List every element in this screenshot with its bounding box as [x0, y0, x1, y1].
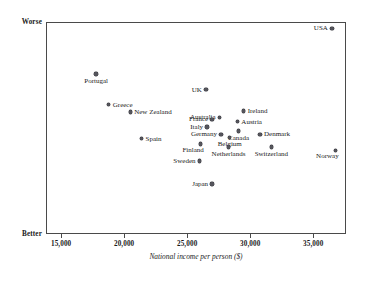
- x-tick-label-30000: 30,000: [226, 240, 274, 248]
- data-label-sweden: Sweden: [173, 157, 195, 164]
- data-label-ireland: Ireland: [248, 108, 268, 115]
- data-label-norway: Norway: [316, 153, 339, 160]
- plot-area: USAPortugalUKGreeceNew ZealandIrelandAus…: [46, 22, 346, 234]
- x-tick-mark-35000: [313, 234, 314, 238]
- data-point-netherlands: [227, 145, 230, 148]
- data-point-germany: [219, 133, 222, 136]
- data-point-austria: [236, 120, 239, 123]
- data-point-italy: [205, 125, 208, 128]
- data-label-spain: Spain: [146, 135, 162, 142]
- data-label-germany: Germany: [191, 131, 217, 138]
- y-axis-worse-label: Worse: [6, 18, 42, 26]
- x-tick-label-20000: 20,000: [100, 240, 148, 248]
- scatter-chart-figure: Worse Better Index of health and social …: [0, 0, 377, 284]
- data-label-greece: Greece: [113, 101, 133, 108]
- x-axis-title: National income per person ($): [46, 252, 346, 261]
- data-point-japan: [210, 182, 213, 185]
- x-tick-label-35000: 35,000: [289, 240, 337, 248]
- data-label-new-zealand: New Zealand: [134, 109, 172, 116]
- data-point-sweden: [198, 159, 201, 162]
- data-label-usa: USA: [314, 25, 328, 32]
- data-label-finland: Finland: [182, 147, 203, 154]
- data-point-denmark: [258, 133, 261, 136]
- data-label-austria: Austria: [241, 118, 262, 125]
- data-point-switzerland: [270, 145, 273, 148]
- y-axis-better-label: Better: [6, 230, 42, 238]
- data-point-uk: [204, 88, 207, 91]
- data-point-usa: [330, 27, 333, 30]
- data-label-denmark: Denmark: [264, 131, 290, 138]
- data-label-uk: UK: [192, 86, 202, 93]
- data-point-portugal: [94, 72, 97, 75]
- data-label-switzerland: Switzerland: [255, 151, 288, 158]
- x-tick-label-25000: 25,000: [163, 240, 211, 248]
- data-point-france: [210, 118, 213, 121]
- data-point-canada: [237, 129, 240, 132]
- x-tick-mark-20000: [124, 234, 125, 238]
- data-label-japan: Japan: [192, 181, 208, 188]
- x-tick-mark-25000: [187, 234, 188, 238]
- data-point-ireland: [242, 109, 245, 112]
- data-point-spain: [140, 137, 143, 140]
- data-point-new-zealand: [129, 110, 132, 113]
- x-tick-mark-30000: [250, 234, 251, 238]
- x-tick-mark-15000: [61, 234, 62, 238]
- data-label-portugal: Portugal: [84, 78, 108, 85]
- x-tick-label-15000: 15,000: [37, 240, 85, 248]
- data-point-greece: [107, 103, 110, 106]
- data-point-australia: [218, 116, 221, 119]
- data-label-netherlands: Netherlands: [212, 151, 246, 158]
